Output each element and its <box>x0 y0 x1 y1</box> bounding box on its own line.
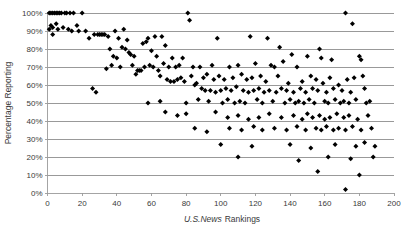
data-point <box>251 124 256 129</box>
data-points <box>47 11 378 192</box>
data-point <box>279 115 284 120</box>
data-point <box>249 75 254 80</box>
data-point <box>156 68 161 73</box>
x-tick-label-100: 100 <box>214 199 228 208</box>
data-point <box>343 128 348 133</box>
data-point <box>94 90 99 95</box>
data-point <box>213 90 218 95</box>
y-tick-label-0: 0% <box>31 189 43 198</box>
data-point <box>314 77 319 82</box>
data-point <box>346 101 351 106</box>
data-point <box>192 126 197 131</box>
data-point <box>204 129 209 134</box>
data-point <box>246 90 251 95</box>
x-tick-label-140: 140 <box>283 199 297 208</box>
data-point <box>305 111 310 116</box>
data-point <box>244 77 249 82</box>
data-point <box>74 23 79 28</box>
data-point <box>118 65 123 70</box>
data-point <box>263 79 268 84</box>
y-tick-label-20: 20% <box>26 153 42 162</box>
data-point <box>163 43 168 48</box>
data-point <box>362 140 367 145</box>
data-point <box>324 124 329 129</box>
data-point <box>218 142 223 147</box>
x-tick-label-80: 80 <box>182 199 191 208</box>
data-point <box>294 65 299 70</box>
chart-canvas: 0%10%20%30%40%50%60%70%80%90%100% 020406… <box>0 0 414 232</box>
data-point <box>359 128 364 133</box>
data-point <box>314 126 319 131</box>
data-point <box>288 142 293 147</box>
data-point <box>241 88 246 93</box>
x-axis-title-roman-part: Rankings <box>225 214 260 224</box>
data-point <box>154 54 159 59</box>
data-point <box>319 128 324 133</box>
data-point <box>260 101 265 106</box>
data-point <box>249 144 254 149</box>
data-point <box>372 144 377 149</box>
data-point <box>90 86 95 91</box>
data-point <box>279 86 284 91</box>
data-point <box>191 65 196 70</box>
data-point <box>307 97 312 102</box>
data-point <box>223 86 228 91</box>
data-point <box>275 74 280 79</box>
data-point <box>317 113 322 118</box>
data-point <box>76 29 81 34</box>
data-point <box>317 47 322 52</box>
y-tick-label-50: 50% <box>26 99 42 108</box>
scatter-chart: 0%10%20%30%40%50%60%70%80%90%100% 020406… <box>0 0 414 232</box>
data-point <box>225 115 230 120</box>
data-point <box>256 115 261 120</box>
data-point <box>336 83 341 88</box>
data-point <box>298 86 303 91</box>
data-point <box>333 142 338 147</box>
data-point <box>161 61 166 66</box>
data-point <box>345 77 350 82</box>
data-point <box>301 101 306 106</box>
y-tick-label-100: 100% <box>22 9 42 18</box>
data-point <box>353 144 358 149</box>
data-point <box>180 56 185 61</box>
data-point <box>310 86 315 91</box>
data-point <box>243 101 248 106</box>
data-point <box>343 11 348 16</box>
data-point <box>267 111 272 116</box>
data-point <box>308 74 313 79</box>
y-tick-label-60: 60% <box>26 81 42 90</box>
x-axis-title-italic-part: U.S.News <box>184 214 223 224</box>
x-tick-label-20: 20 <box>78 199 87 208</box>
data-point <box>300 79 305 84</box>
data-point <box>222 77 227 82</box>
data-point <box>189 74 194 79</box>
data-point <box>308 146 313 151</box>
data-point <box>274 90 279 95</box>
data-point <box>142 65 147 70</box>
data-point <box>230 75 235 80</box>
data-point <box>357 173 362 178</box>
data-point <box>353 97 358 102</box>
gridlines <box>48 13 395 175</box>
data-point <box>113 29 118 34</box>
data-point <box>310 115 315 120</box>
data-point <box>197 65 202 70</box>
data-point <box>284 128 289 133</box>
data-point <box>184 111 189 116</box>
data-point <box>291 90 296 95</box>
y-tick-label-80: 80% <box>26 45 42 54</box>
x-tick-label-60: 60 <box>147 199 156 208</box>
data-point <box>227 126 232 131</box>
data-point <box>239 128 244 133</box>
data-point <box>369 126 374 131</box>
data-point <box>170 56 175 61</box>
data-point <box>331 128 336 133</box>
data-point <box>333 97 338 102</box>
data-point <box>348 90 353 95</box>
y-axis-tick-labels: 0%10%20%30%40%50%60%70%80%90%100% <box>22 9 47 198</box>
data-point <box>284 88 289 93</box>
data-point <box>265 36 270 41</box>
data-point <box>218 88 223 93</box>
data-point <box>185 11 190 16</box>
y-tick-label-90: 90% <box>26 27 42 36</box>
